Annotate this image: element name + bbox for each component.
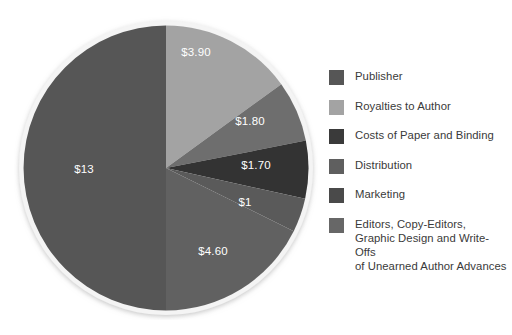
- legend-swatch-icon: [329, 70, 344, 85]
- legend-item[interactable]: Distribution: [329, 158, 507, 174]
- legend-swatch-icon: [329, 159, 344, 174]
- legend: PublisherRoyalties to AuthorCosts of Pap…: [329, 69, 507, 273]
- legend-swatch-icon: [329, 218, 344, 233]
- legend-item-label: Royalties to Author: [355, 99, 451, 113]
- pie-slice-value-label: $1: [239, 196, 252, 208]
- pie-chart: $3.90$1.80$1.70$1$4.60$13: [14, 16, 318, 320]
- legend-item[interactable]: Editors, Copy-Editors, Graphic Design an…: [329, 217, 507, 274]
- legend-item[interactable]: Royalties to Author: [329, 99, 507, 115]
- pie-slice-value-label: $13: [74, 163, 94, 175]
- pie-chart-figure: $3.90$1.80$1.70$1$4.60$13 PublisherRoyal…: [0, 0, 512, 335]
- legend-item-label: Marketing: [355, 187, 405, 201]
- pie-slice-value-label: $1.70: [241, 159, 270, 171]
- legend-item[interactable]: Marketing: [329, 187, 507, 203]
- legend-swatch-icon: [329, 129, 344, 144]
- legend-item-label: Distribution: [355, 158, 412, 172]
- legend-item[interactable]: Publisher: [329, 69, 507, 85]
- pie-chart-svg: $3.90$1.80$1.70$1$4.60$13: [14, 16, 318, 320]
- pie-slice-value-label: $3.90: [181, 46, 210, 58]
- pie-slice[interactable]: [24, 26, 166, 311]
- pie-slice-value-label: $1.80: [235, 115, 264, 127]
- pie-slice-value-label: $4.60: [198, 245, 227, 257]
- legend-item-label: Editors, Copy-Editors, Graphic Design an…: [355, 217, 507, 274]
- legend-item[interactable]: Costs of Paper and Binding: [329, 128, 507, 144]
- legend-item-label: Publisher: [355, 69, 403, 83]
- legend-swatch-icon: [329, 188, 344, 203]
- legend-item-label: Costs of Paper and Binding: [355, 128, 494, 142]
- legend-swatch-icon: [329, 100, 344, 115]
